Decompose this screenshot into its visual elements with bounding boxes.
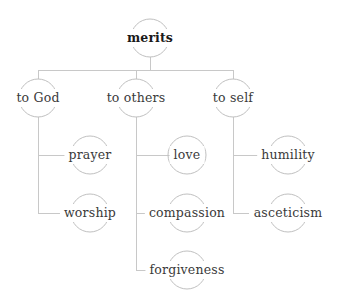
node-to-self: to self bbox=[209, 89, 257, 107]
node-merits: merits bbox=[123, 29, 177, 47]
node-humility: humility bbox=[257, 146, 319, 164]
node-love: love bbox=[170, 146, 205, 164]
node-to-others: to others bbox=[103, 89, 170, 107]
node-prayer: prayer bbox=[64, 146, 115, 164]
merits-tree-diagram: merits to God to others to self prayer w… bbox=[0, 0, 337, 301]
node-asceticism: asceticism bbox=[250, 204, 327, 222]
node-forgiveness: forgiveness bbox=[145, 261, 228, 279]
node-to-god: to God bbox=[12, 89, 63, 107]
node-worship: worship bbox=[60, 204, 120, 222]
node-compassion: compassion bbox=[145, 204, 229, 222]
